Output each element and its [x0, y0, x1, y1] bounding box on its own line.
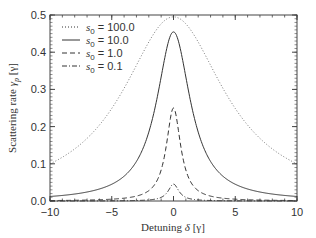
y-axis-title: Scattering rate γp [γ] — [6, 63, 21, 153]
x-tick-label: −5 — [105, 206, 118, 218]
curve-dashed — [50, 108, 297, 201]
y-tick-label: 0.5 — [31, 9, 46, 21]
x-tick-label: 5 — [232, 206, 238, 218]
y-tick-label: 0.4 — [31, 46, 46, 58]
x-tick-label: 10 — [291, 206, 303, 218]
legend: s0= 100.0s0= 10.0s0= 1.0s0= 0.1 — [62, 21, 135, 75]
y-tick-label: 0.0 — [31, 195, 46, 207]
x-axis-ticks: −10−50510 — [41, 15, 303, 218]
y-tick-label: 0.1 — [31, 158, 46, 170]
x-tick-label: 0 — [170, 206, 176, 218]
x-axis-title: Detuning δ [γ] — [141, 221, 205, 233]
y-tick-label: 0.3 — [31, 83, 46, 95]
y-axis-ticks: 0.00.10.20.30.40.5 — [31, 9, 297, 207]
scattering-rate-chart: −10−50510 0.00.10.20.30.40.5 s0= 100.0s0… — [0, 0, 316, 238]
legend-label: s0= 0.1 — [86, 60, 123, 75]
x-tick-label: −10 — [41, 206, 60, 218]
y-tick-label: 0.2 — [31, 121, 46, 133]
